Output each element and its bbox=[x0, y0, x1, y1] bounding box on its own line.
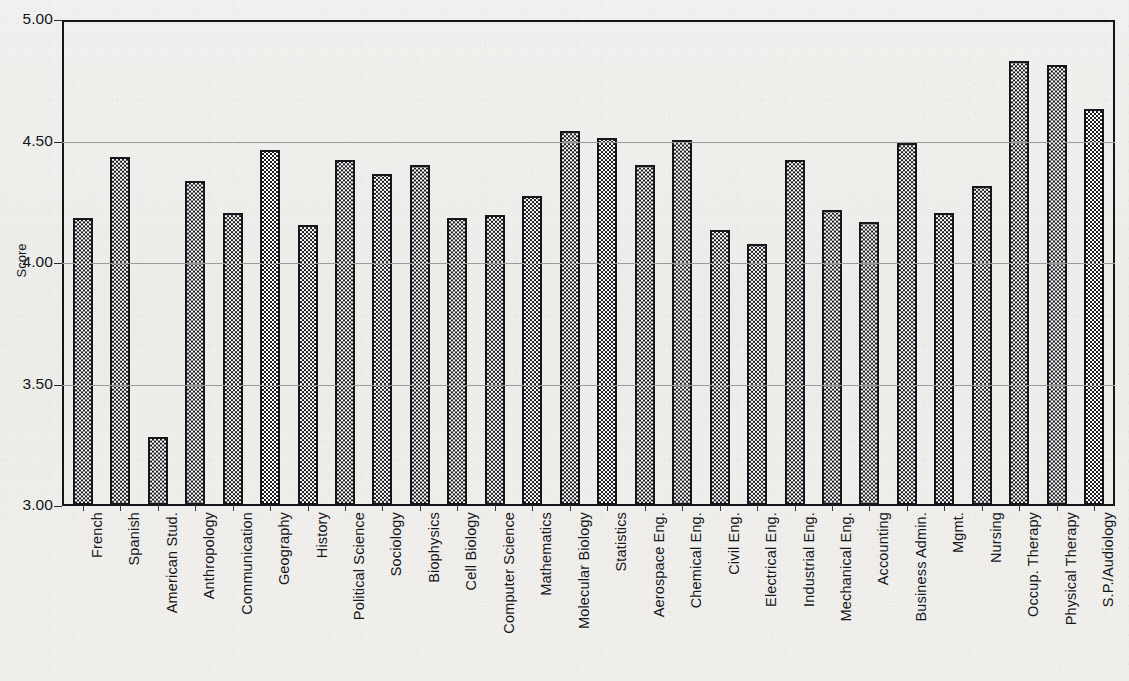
x-label-slot: Political Science bbox=[326, 512, 363, 680]
x-tick-mark bbox=[457, 505, 458, 511]
bar bbox=[372, 174, 392, 505]
y-tick-label: 3.00 bbox=[7, 496, 53, 514]
x-tick-mark bbox=[345, 505, 346, 511]
bar bbox=[597, 138, 617, 505]
gridline bbox=[62, 142, 1115, 143]
x-label-slot: History bbox=[289, 512, 326, 680]
x-tick-mark bbox=[420, 505, 421, 511]
x-label-slot: French bbox=[64, 512, 101, 680]
bar bbox=[73, 218, 93, 505]
bar bbox=[785, 160, 805, 505]
x-label-slot: Mechanical Eng. bbox=[813, 512, 850, 680]
x-label-slot: American Stud. bbox=[139, 512, 176, 680]
bar bbox=[185, 181, 205, 505]
bar bbox=[110, 157, 130, 505]
x-label-slot: Mathematics bbox=[514, 512, 551, 680]
bar bbox=[522, 196, 542, 505]
x-label-slot: Spanish bbox=[101, 512, 138, 680]
bar bbox=[710, 230, 730, 505]
chart-figure: Score FrenchSpanishAmerican Stud.Anthrop… bbox=[0, 0, 1129, 681]
bar bbox=[822, 210, 842, 505]
y-tick-mark bbox=[54, 263, 62, 264]
x-tick-mark bbox=[869, 505, 870, 511]
x-tick-mark bbox=[1057, 505, 1058, 511]
x-tick-mark bbox=[308, 505, 309, 511]
x-label-slot: Industrial Eng. bbox=[776, 512, 813, 680]
bar bbox=[410, 165, 430, 506]
x-tick-mark bbox=[570, 505, 571, 511]
x-tick-mark bbox=[720, 505, 721, 511]
x-tick-mark bbox=[682, 505, 683, 511]
y-tick-label: 3.50 bbox=[7, 375, 53, 393]
x-label-slot: Sociology bbox=[364, 512, 401, 680]
x-tick-mark bbox=[832, 505, 833, 511]
x-label-slot: Aerospace Eng. bbox=[626, 512, 663, 680]
x-label-slot: Physical Therapy bbox=[1038, 512, 1075, 680]
x-tick-mark bbox=[382, 505, 383, 511]
x-tick-mark bbox=[1019, 505, 1020, 511]
bar bbox=[747, 244, 767, 505]
bar bbox=[447, 218, 467, 505]
y-tick-mark bbox=[54, 385, 62, 386]
bar bbox=[223, 213, 243, 505]
x-label-slot: Occup. Therapy bbox=[1001, 512, 1038, 680]
x-tick-mark bbox=[195, 505, 196, 511]
x-label-slot: Cell Biology bbox=[439, 512, 476, 680]
x-label-slot: Electrical Eng. bbox=[738, 512, 775, 680]
bar bbox=[672, 140, 692, 505]
y-tick-label: 4.50 bbox=[7, 132, 53, 150]
x-tick-mark bbox=[532, 505, 533, 511]
x-axis-tick-label: S.P./Audiology bbox=[1100, 512, 1116, 607]
x-label-slot: Chemical Eng. bbox=[663, 512, 700, 680]
bar bbox=[298, 225, 318, 505]
x-tick-mark bbox=[607, 505, 608, 511]
x-tick-mark bbox=[795, 505, 796, 511]
x-tick-mark bbox=[83, 505, 84, 511]
x-tick-mark bbox=[495, 505, 496, 511]
x-tick-mark bbox=[270, 505, 271, 511]
x-label-slot: Molecular Biology bbox=[551, 512, 588, 680]
bar bbox=[335, 160, 355, 505]
bar bbox=[972, 186, 992, 505]
bar bbox=[485, 215, 505, 505]
x-label-slot: Statistics bbox=[589, 512, 626, 680]
x-label-slot: Communication bbox=[214, 512, 251, 680]
bar bbox=[1009, 61, 1029, 505]
gridline bbox=[62, 263, 1115, 264]
bar bbox=[1084, 109, 1104, 505]
x-label-slot: Anthropology bbox=[176, 512, 213, 680]
x-tick-mark bbox=[1094, 505, 1095, 511]
x-tick-mark bbox=[757, 505, 758, 511]
y-tick-label: 4.00 bbox=[7, 253, 53, 271]
x-tick-mark bbox=[944, 505, 945, 511]
bar bbox=[934, 213, 954, 505]
bar bbox=[148, 437, 168, 505]
x-label-slot: Business Admin. bbox=[888, 512, 925, 680]
x-tick-mark bbox=[982, 505, 983, 511]
x-tick-mark bbox=[907, 505, 908, 511]
x-label-slot: S.P./Audiology bbox=[1076, 512, 1113, 680]
x-label-slot: Geography bbox=[251, 512, 288, 680]
bar bbox=[260, 150, 280, 505]
x-tick-mark bbox=[158, 505, 159, 511]
gridline bbox=[62, 385, 1115, 386]
x-label-slot: Accounting bbox=[851, 512, 888, 680]
y-tick-mark bbox=[54, 506, 62, 507]
x-tick-mark bbox=[120, 505, 121, 511]
y-tick-mark bbox=[54, 142, 62, 143]
x-tick-mark bbox=[233, 505, 234, 511]
bar bbox=[897, 143, 917, 505]
x-label-slot: Civil Eng. bbox=[701, 512, 738, 680]
x-label-slot: Mgmt. bbox=[926, 512, 963, 680]
x-label-slot: Computer Science bbox=[476, 512, 513, 680]
x-label-slot: Biophysics bbox=[401, 512, 438, 680]
x-tick-mark bbox=[645, 505, 646, 511]
bar bbox=[1047, 65, 1067, 505]
bar bbox=[859, 222, 879, 505]
y-tick-label: 5.00 bbox=[7, 10, 53, 28]
x-axis-labels: FrenchSpanishAmerican Stud.AnthropologyC… bbox=[64, 512, 1113, 680]
x-label-slot: Nursing bbox=[963, 512, 1000, 680]
bar bbox=[560, 131, 580, 505]
y-tick-mark bbox=[54, 20, 62, 21]
bar bbox=[635, 165, 655, 506]
